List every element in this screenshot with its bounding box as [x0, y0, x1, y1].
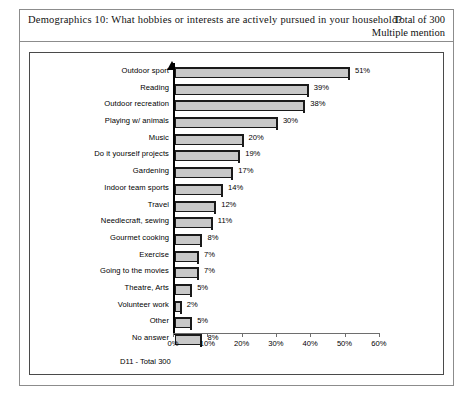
bar-value-label: 17%: [238, 166, 253, 175]
header-meta: Total of 300 Multiple mention: [372, 13, 445, 39]
bar-category-label: Indoor team sports: [104, 183, 169, 192]
bar-row: Exercise7%: [30, 249, 445, 266]
bar-row: Playing w/ animals30%: [30, 115, 445, 132]
bar-category-label: Gardening: [133, 166, 169, 175]
bar-value-label: 5%: [197, 283, 208, 292]
bar-value-label: 5%: [197, 316, 208, 325]
bar-row: Theatre, Arts5%: [30, 282, 445, 299]
bar: [175, 167, 233, 178]
x-axis: 0%10%20%30%40%50%60%: [30, 333, 445, 357]
x-axis-tick: [379, 333, 380, 337]
bar: [175, 184, 223, 195]
bar-fill: [175, 267, 199, 278]
bar-fill: [175, 184, 223, 195]
bar: [175, 100, 305, 111]
bar-fill: [175, 284, 192, 295]
bar-fill: [175, 167, 233, 178]
x-axis-tick-label: 30%: [268, 339, 283, 348]
bar: [175, 284, 192, 295]
x-axis-tick: [276, 333, 277, 337]
bar-value-label: 30%: [283, 116, 298, 125]
bar-row: Reading39%: [30, 82, 445, 99]
bar-category-label: Do it yourself projects: [94, 149, 169, 158]
x-axis-tick-label: 60%: [371, 339, 386, 348]
bar-value-label: 8%: [207, 233, 218, 242]
bar-category-label: Exercise: [139, 250, 169, 259]
bar-value-label: 11%: [218, 216, 233, 225]
bar-row: Other5%: [30, 315, 445, 332]
bar-row: Gardening17%: [30, 165, 445, 182]
bar-value-label: 20%: [249, 133, 264, 142]
bar: [175, 201, 216, 212]
bar: [175, 234, 202, 245]
x-axis-tick-label: 10%: [200, 339, 215, 348]
x-axis-tick: [242, 333, 243, 337]
bar-fill: [175, 234, 202, 245]
bar-row: Travel12%: [30, 199, 445, 216]
bar-rows: Outdoor sport51%Reading39%Outdoor recrea…: [30, 65, 445, 349]
bar-row: Going to the movies7%: [30, 265, 445, 282]
bar: [175, 67, 350, 78]
bar-category-label: Theatre, Arts: [125, 283, 169, 292]
bar-fill: [175, 84, 309, 95]
bar: [175, 150, 240, 161]
bar-value-label: 7%: [204, 266, 215, 275]
bar-category-label: Volunteer work: [118, 300, 169, 309]
x-axis-tick-label: 50%: [337, 339, 352, 348]
bar-row: Volunteer work2%: [30, 299, 445, 316]
bar-row: Indoor team sports14%: [30, 182, 445, 199]
x-axis-tick: [310, 333, 311, 337]
bar-fill: [175, 317, 192, 328]
bar: [175, 251, 199, 262]
bar-chart: Outdoor sport51%Reading39%Outdoor recrea…: [30, 53, 445, 376]
bar-category-label: Reading: [140, 83, 169, 92]
mention-type: Multiple mention: [372, 26, 445, 39]
bar-category-label: Needlecraft, sewing: [101, 216, 169, 225]
bar: [175, 301, 182, 312]
bar-category-label: Music: [149, 133, 169, 142]
bar-fill: [175, 301, 182, 312]
bar-value-label: 39%: [314, 83, 329, 92]
bar: [175, 84, 309, 95]
bar-row: Gourmet cooking8%: [30, 232, 445, 249]
bar-fill: [175, 217, 213, 228]
bar-category-label: Outdoor recreation: [104, 99, 169, 108]
total-count: Total of 300: [372, 13, 445, 26]
bar-value-label: 38%: [310, 99, 325, 108]
bar-category-label: Outdoor sport: [122, 66, 169, 75]
bar-value-label: 7%: [204, 250, 215, 259]
bar-row: Music20%: [30, 132, 445, 149]
bar-category-label: Gourmet cooking: [110, 233, 169, 242]
bar-category-label: Going to the movies: [100, 266, 169, 275]
bar-category-label: Playing w/ animals: [105, 116, 169, 125]
bar-row: Do it yourself projects19%: [30, 148, 445, 165]
bar-value-label: 2%: [187, 300, 198, 309]
chart-source-note: D11 - Total 300: [120, 357, 171, 366]
x-axis-tick: [207, 333, 208, 337]
screenshot-root: Demographics 10: What hobbies or interes…: [0, 0, 474, 399]
question-title: Demographics 10: What hobbies or interes…: [28, 14, 402, 25]
bar-row: Outdoor sport51%: [30, 65, 445, 82]
bar-value-label: 51%: [355, 66, 370, 75]
bar-fill: [175, 100, 305, 111]
report-header: Demographics 10: What hobbies or interes…: [19, 9, 454, 42]
bar-category-label: Travel: [148, 200, 169, 209]
x-axis-tick-label: 40%: [303, 339, 318, 348]
bar: [175, 267, 199, 278]
bar-category-label: Other: [150, 316, 169, 325]
bar-value-label: 12%: [221, 200, 236, 209]
bar: [175, 317, 192, 328]
bar-fill: [175, 150, 240, 161]
bar-fill: [175, 201, 216, 212]
bar: [175, 217, 213, 228]
bar-fill: [175, 251, 199, 262]
bar-fill: [175, 67, 350, 78]
bar-value-label: 14%: [228, 183, 243, 192]
bar-fill: [175, 134, 244, 145]
bar: [175, 134, 244, 145]
x-axis-tick-label: 20%: [234, 339, 249, 348]
x-axis-tick-label: 0%: [168, 339, 179, 348]
x-axis-tick: [345, 333, 346, 337]
chart-plot-area: Outdoor sport51%Reading39%Outdoor recrea…: [29, 52, 444, 375]
x-axis-tick: [173, 333, 174, 337]
